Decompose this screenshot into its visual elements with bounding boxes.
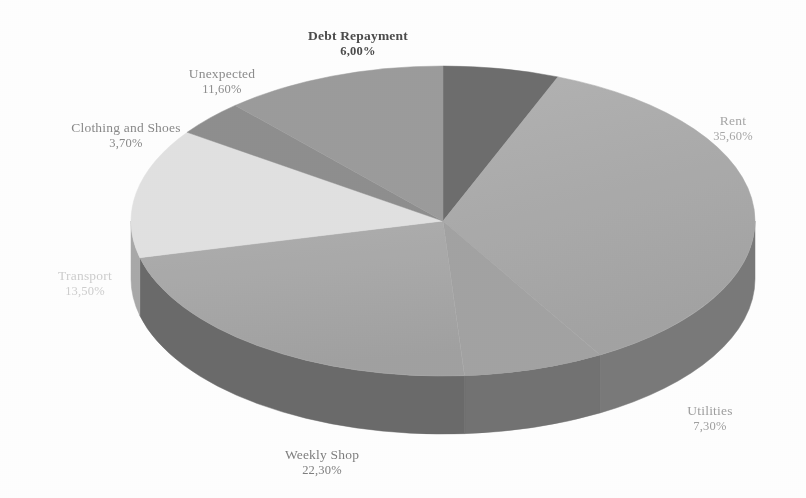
slice-label-value: 3,70%: [16, 136, 236, 151]
slice-label-transport: Transport 13,50%: [10, 268, 160, 299]
slice-label-name: Transport: [10, 268, 160, 284]
slice-label-value: 35,60%: [668, 129, 798, 144]
pie-chart-figure: Debt Repayment 6,00% Unexpected 11,60% C…: [0, 0, 806, 498]
slice-label-name: Unexpected: [132, 66, 312, 82]
slice-label-name: Weekly Shop: [232, 447, 412, 463]
slice-label-value: 7,30%: [640, 419, 780, 434]
slice-label-value: 13,50%: [10, 284, 160, 299]
slice-label-name: Clothing and Shoes: [16, 120, 236, 136]
slice-label-unexpected: Unexpected 11,60%: [132, 66, 312, 97]
slice-label-weekly-shop: Weekly Shop 22,30%: [232, 447, 412, 478]
slice-label-name: Debt Repayment: [258, 28, 458, 44]
slice-label-value: 6,00%: [258, 44, 458, 59]
slice-label-utilities: Utilities 7,30%: [640, 403, 780, 434]
slice-label-name: Utilities: [640, 403, 780, 419]
slice-label-name: Rent: [668, 113, 798, 129]
slice-label-value: 22,30%: [232, 463, 412, 478]
slice-label-debt-repayment: Debt Repayment 6,00%: [258, 28, 458, 59]
slice-label-value: 11,60%: [132, 82, 312, 97]
slice-label-rent: Rent 35,60%: [668, 113, 798, 144]
slice-label-clothing-and-shoes: Clothing and Shoes 3,70%: [16, 120, 236, 151]
